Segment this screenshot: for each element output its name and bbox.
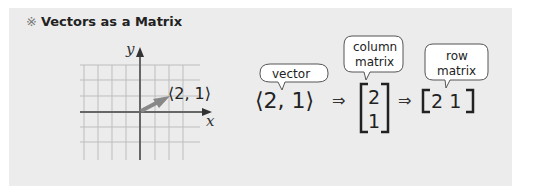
axes (80, 54, 205, 160)
row-entries: 2 1 (431, 90, 461, 112)
bubble-row-text-2: matrix (437, 64, 476, 78)
vector-label: ⟨2, 1⟩ (168, 84, 211, 103)
implies-arrow-2: ⇒ (398, 91, 411, 110)
bubble-column-text-1: column (353, 40, 397, 54)
x-axis-label: x (206, 112, 215, 130)
bubble-vector-text: vector (272, 67, 310, 81)
bubble-column-text-2: matrix (355, 55, 394, 69)
implies-arrow-1: ⇒ (332, 91, 345, 110)
y-axis-arrow-icon (136, 47, 144, 57)
y-axis-label: y (125, 40, 135, 58)
vector-expression: ⟨2, 1⟩ (255, 88, 314, 113)
column-entry-1: 2 (368, 86, 380, 108)
column-entry-2: 1 (368, 110, 380, 132)
diagram-canvas: y x ⟨2, 1⟩ vector column matrix row matr… (0, 0, 556, 195)
bubble-row-text-1: row (446, 49, 468, 63)
